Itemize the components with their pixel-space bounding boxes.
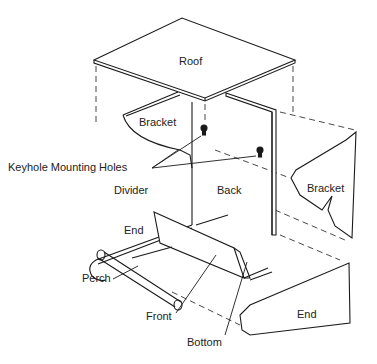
keyhole-holes xyxy=(201,125,263,157)
label-front: Front xyxy=(146,311,172,322)
birdfeeder-exploded-diagram: Roof Bracket Keyhole Mounting Holes Divi… xyxy=(0,0,377,364)
front-panel xyxy=(132,212,250,278)
label-end-left: End xyxy=(124,225,144,236)
label-bracket-right: Bracket xyxy=(307,183,344,194)
left-bracket xyxy=(123,92,192,168)
label-back: Back xyxy=(217,185,241,196)
label-end-right: End xyxy=(297,309,317,320)
label-bottom: Bottom xyxy=(187,337,222,348)
label-bracket-left: Bracket xyxy=(139,117,176,128)
right-end-panel xyxy=(240,263,350,335)
label-perch: Perch xyxy=(82,273,111,284)
label-divider: Divider xyxy=(114,185,148,196)
label-keyhole-mounting-holes: Keyhole Mounting Holes xyxy=(8,162,127,173)
label-roof: Roof xyxy=(179,56,202,67)
